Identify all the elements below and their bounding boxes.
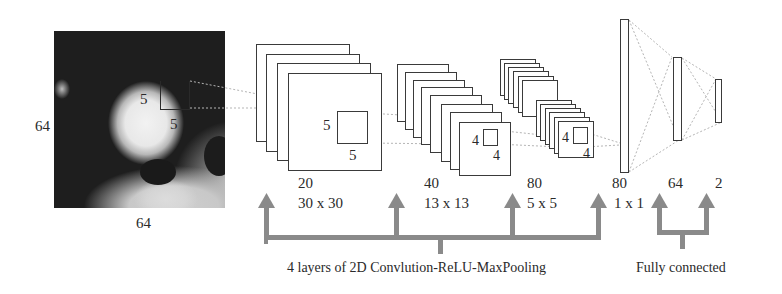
fc-group-label: Fully connected [636, 260, 726, 275]
fc-group-bracket [651, 193, 715, 249]
conv-group-bracket [258, 193, 607, 255]
conv-group-label: 4 layers of 2D Convlution-ReLU-MaxPoolin… [287, 260, 546, 275]
